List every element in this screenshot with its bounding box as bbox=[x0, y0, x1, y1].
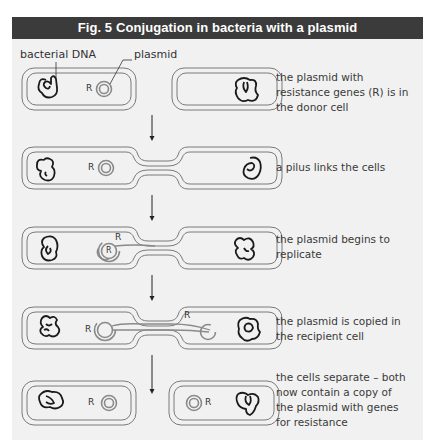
resistance-gene-label: R bbox=[88, 162, 94, 172]
plasmid-label: plasmid bbox=[134, 48, 177, 61]
step-2-cells bbox=[22, 147, 282, 189]
step-4-caption: the plasmid is copied in the recipient c… bbox=[276, 314, 411, 344]
bacterial-dna-label: bacterial DNA bbox=[20, 48, 96, 61]
resistance-gene-label: R bbox=[86, 83, 92, 93]
step-2-caption: a pilus links the cells bbox=[276, 160, 411, 175]
step-3-cells bbox=[22, 227, 282, 269]
step-3-caption: the plasmid begins to replicate bbox=[276, 232, 411, 262]
resistance-gene-label: R bbox=[106, 246, 112, 255]
resistance-gene-label: R bbox=[88, 397, 94, 407]
step-5-caption: the cells separate – both now contain a … bbox=[276, 370, 411, 430]
resistance-gene-label: R bbox=[115, 232, 121, 242]
step-5-cells bbox=[22, 381, 279, 425]
step-1-cells bbox=[22, 68, 282, 110]
step-4-cells bbox=[22, 307, 282, 349]
resistance-gene-label: R bbox=[184, 310, 190, 320]
resistance-gene-label: R bbox=[85, 324, 91, 334]
arrow-down-icon bbox=[150, 136, 155, 141]
step-1-caption: the plasmid with resistance genes (R) is… bbox=[276, 70, 411, 115]
bacterial-dna-icon bbox=[38, 76, 57, 97]
resistance-gene-label: R bbox=[205, 397, 211, 407]
